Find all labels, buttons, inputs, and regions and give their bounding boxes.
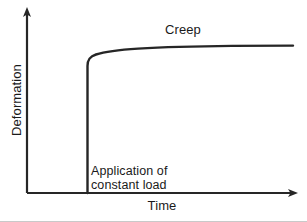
y-axis-label: Deformation — [9, 0, 25, 211]
creep-deformation-figure: Deformation Time Creep Application ofcon… — [0, 0, 307, 222]
creep-annotation-label: Creep — [165, 23, 201, 38]
load-application-annotation: Application ofconstant load — [91, 164, 167, 192]
load-annotation-line-2: constant load — [91, 178, 167, 192]
x-axis-label: Time — [27, 199, 297, 214]
figure-bottom-rule — [0, 221, 307, 222]
load-annotation-line-1: Application of — [91, 164, 167, 178]
